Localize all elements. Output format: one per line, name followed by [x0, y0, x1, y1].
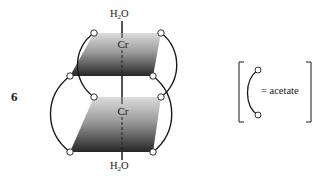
axial-water-top-label: H2O [110, 9, 129, 21]
oxygen-atom [91, 94, 97, 100]
oxygen-atom [158, 94, 164, 100]
water-h: H [110, 160, 118, 171]
bottom-coordination-plane [70, 97, 161, 152]
legend-acetate-arc [248, 70, 259, 115]
legend-oxygen-atom [255, 67, 261, 73]
axial-water-bottom-label: H2O [110, 161, 129, 173]
water-o: O [121, 160, 129, 171]
legend-right-bracket [306, 62, 311, 122]
legend-left-bracket [239, 62, 244, 122]
oxygen-atom [67, 149, 73, 155]
oxygen-atom [158, 30, 164, 36]
legend-acetate-label: = acetate [261, 86, 299, 97]
acetate-bridge-front-left [51, 76, 71, 152]
chromium-bottom-label: Cr [118, 106, 129, 117]
oxygen-atom [150, 73, 156, 79]
oxygen-atom [150, 149, 156, 155]
oxygen-atom [91, 30, 97, 36]
water-o: O [121, 8, 129, 19]
compound-number: 6 [11, 90, 18, 103]
top-coordination-plane [70, 33, 161, 76]
oxygen-atom [67, 73, 73, 79]
chromium-top-label: Cr [118, 39, 129, 50]
figure-canvas: 6 H2O Cr Cr H2O = acetate [0, 0, 324, 183]
legend-oxygen-atom [255, 112, 261, 118]
water-h: H [110, 8, 118, 19]
